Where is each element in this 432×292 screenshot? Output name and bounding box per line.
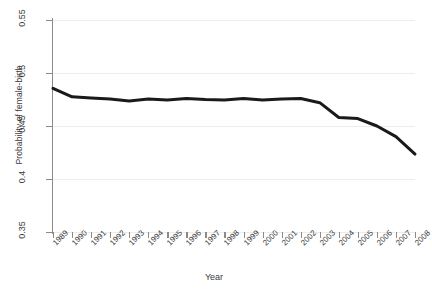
female-birth-probability-line <box>53 88 415 154</box>
